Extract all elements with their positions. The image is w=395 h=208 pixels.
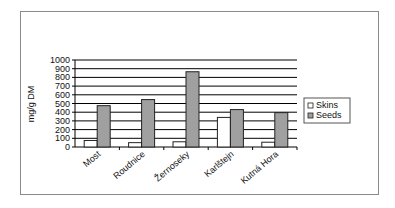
legend-label-seeds: Seeds xyxy=(316,110,342,120)
bar-skins xyxy=(262,142,275,147)
x-category-label: Žernoseky xyxy=(153,149,192,184)
x-category-label: Most xyxy=(81,149,103,170)
bar-skins xyxy=(84,140,97,147)
y-tick-label: 100 xyxy=(55,133,70,143)
y-tick-label: 800 xyxy=(55,72,70,82)
x-category-label: Roudnice xyxy=(111,149,147,181)
y-tick-label: 500 xyxy=(55,99,70,109)
x-category-label: Karlštejn xyxy=(202,149,235,179)
bar-skins xyxy=(129,143,142,147)
y-tick-label: 1000 xyxy=(50,55,70,65)
legend-swatch-skins xyxy=(308,103,313,108)
bar-seeds xyxy=(230,110,243,147)
y-tick-label: 200 xyxy=(55,125,70,135)
y-tick-label: 0 xyxy=(65,142,70,152)
y-tick-label: 700 xyxy=(55,81,70,91)
bar-seeds xyxy=(142,100,155,147)
y-tick-label: 600 xyxy=(55,90,70,100)
bar-chart: 01002003004005006007008009001000mg/g DMM… xyxy=(0,0,395,208)
y-tick-label: 400 xyxy=(55,107,70,117)
bar-skins xyxy=(217,117,230,147)
legend-label-skins: Skins xyxy=(316,100,339,110)
bar-seeds xyxy=(97,106,110,147)
bar-skins xyxy=(173,142,186,147)
y-tick-label: 900 xyxy=(55,64,70,74)
bar-seeds xyxy=(186,72,199,147)
bar-seeds xyxy=(275,113,288,147)
y-axis-label: mg/g DM xyxy=(26,86,36,123)
legend-swatch-seeds xyxy=(308,113,313,118)
y-tick-label: 300 xyxy=(55,116,70,126)
x-category-label: Kutná Hora xyxy=(239,149,280,186)
